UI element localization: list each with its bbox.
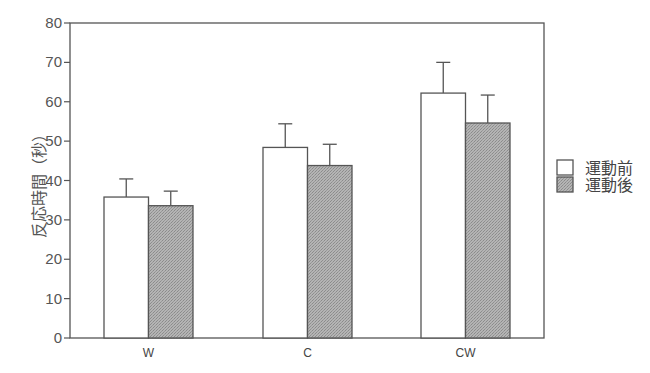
y-tick-label: 20	[45, 250, 62, 267]
legend: 運動前運動後	[557, 159, 633, 195]
legend-label: 運動後	[585, 176, 633, 195]
bar-w-before	[104, 197, 149, 338]
bar-cw-before	[421, 93, 466, 338]
x-tick-label: C	[303, 346, 312, 360]
bar-w-after	[149, 206, 194, 338]
bars	[104, 62, 510, 338]
y-tick-label: 0	[54, 329, 62, 346]
x-tick-label: CW	[456, 346, 477, 360]
y-tick-label: 10	[45, 290, 62, 307]
y-axis-label: 反応時間（秒）	[30, 126, 49, 238]
bar-chart: 01020304050607080 WCCW 反応時間（秒） 運動前運動後	[0, 0, 650, 373]
bar-cw-after	[466, 123, 511, 338]
y-axis: 01020304050607080	[45, 14, 70, 346]
y-tick-label: 60	[45, 93, 62, 110]
legend-swatch	[557, 160, 573, 175]
bar-c-before	[263, 147, 308, 338]
y-tick-label: 80	[45, 14, 62, 31]
legend-swatch	[557, 177, 573, 192]
y-tick-label: 70	[45, 53, 62, 70]
bar-c-after	[308, 166, 353, 338]
x-axis-labels: WCCW	[143, 346, 476, 360]
x-tick-label: W	[143, 346, 155, 360]
